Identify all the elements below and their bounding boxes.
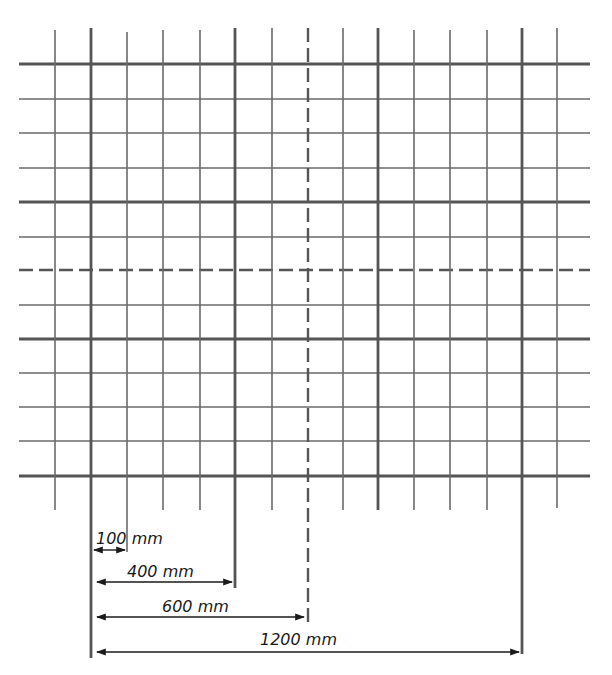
dimension-label: 400 mm xyxy=(127,562,194,581)
dimension-label: 600 mm xyxy=(162,597,229,616)
horizontal-grid-lines xyxy=(19,64,590,476)
dimension-100-mm: 100 mm xyxy=(94,529,163,550)
dimension-annotations: 100 mm400 mm600 mm1200 mm xyxy=(94,529,519,652)
dimension-label: 1200 mm xyxy=(260,630,337,649)
stud-grid-diagram: 100 mm400 mm600 mm1200 mm xyxy=(0,0,612,675)
dimension-label: 100 mm xyxy=(96,529,163,548)
dimension-1200-mm: 1200 mm xyxy=(97,630,519,652)
dimension-400-mm: 400 mm xyxy=(97,562,232,582)
dimension-600-mm: 600 mm xyxy=(97,597,304,617)
